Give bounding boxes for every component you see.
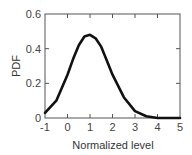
pdf-chart: -101234500.20.40.6 Normalized level PDF	[0, 0, 192, 155]
y-tick-label: 0.6	[26, 8, 41, 20]
y-tick-label: 0	[35, 112, 41, 124]
x-tick-label: 0	[64, 121, 70, 133]
x-tick-label: -1	[40, 121, 50, 133]
x-axis-label: Normalized level	[72, 139, 153, 151]
pdf-curve	[45, 35, 180, 118]
y-tick-label: 0.2	[26, 77, 41, 89]
plot-frame	[45, 14, 180, 118]
x-tick-label: 5	[177, 121, 183, 133]
x-tick-label: 1	[87, 121, 93, 133]
x-tick-label: 2	[109, 121, 115, 133]
y-axis-label: PDF	[10, 55, 22, 77]
x-tick-label: 4	[154, 121, 160, 133]
x-tick-label: 3	[132, 121, 138, 133]
plot-area: -101234500.20.40.6	[26, 8, 183, 133]
y-tick-label: 0.4	[26, 43, 41, 55]
